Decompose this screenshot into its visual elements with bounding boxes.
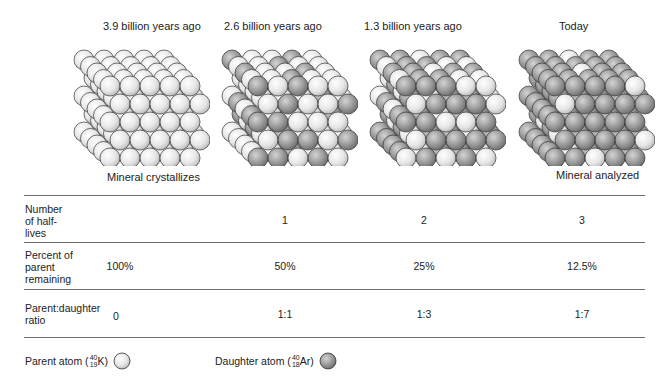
stage-title-4: Today [559, 20, 588, 32]
cell-ratio-3: 1:3 [417, 308, 432, 320]
caption-mineral-crystallizes: Mineral crystallizes [107, 171, 200, 183]
cell-ratio-1: 0 [113, 310, 119, 322]
cell-percent-4: 12.5% [567, 260, 597, 272]
isotope-notation-ar: 40 18 [292, 354, 300, 368]
parent-atom-icon [113, 352, 131, 370]
legend-daughter-label: Daughter atom ( [215, 355, 291, 367]
crystal-cube-1 [70, 36, 210, 166]
daughter-atom-icon [319, 352, 337, 370]
cell-half-lives-2: 1 [282, 214, 288, 226]
legend-daughter-atom: Daughter atom ( 40 18 Ar) [215, 352, 337, 370]
isotope-notation-k: 40 19 [90, 354, 98, 368]
cell-percent-3: 25% [413, 260, 434, 272]
row-label-half-lives: Number of half- lives [25, 203, 62, 239]
caption-mineral-analyzed: Mineral analyzed [556, 169, 639, 181]
cell-ratio-2: 1:1 [278, 308, 293, 320]
stage-title-1: 3.9 billion years ago [103, 20, 201, 32]
table-rule-1 [24, 242, 645, 243]
legend-parent-symbol: K) [97, 355, 108, 367]
crystal-cube-3 [366, 36, 506, 166]
cell-ratio-4: 1:7 [575, 308, 590, 320]
table-rule-top [24, 195, 645, 196]
crystal-cube-4 [515, 36, 655, 166]
table-rule-bottom [24, 337, 645, 338]
cell-half-lives-4: 3 [579, 214, 585, 226]
row-label-percent-parent: Percent of parent remaining [25, 249, 73, 285]
legend-parent-atom: Parent atom ( 40 19 K) [25, 352, 131, 370]
crystal-cube-2 [218, 36, 358, 166]
legend-daughter-symbol: Ar) [300, 355, 314, 367]
table-rule-2 [24, 289, 645, 290]
legend-parent-label: Parent atom ( [25, 355, 89, 367]
cell-half-lives-3: 2 [421, 214, 427, 226]
stage-title-3: 1.3 billion years ago [364, 20, 462, 32]
row-label-ratio: Parent:daughter ratio [25, 302, 100, 326]
cell-percent-2: 50% [274, 260, 295, 272]
stage-title-2: 2.6 billion years ago [224, 20, 322, 32]
cell-percent-1: 100% [107, 260, 134, 272]
